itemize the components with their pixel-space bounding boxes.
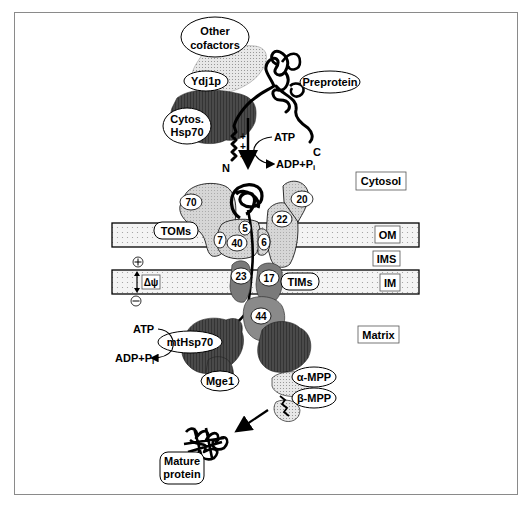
cytos-hsp70-text-1: Cytos. (170, 113, 204, 125)
mature-text-2: protein (163, 468, 201, 480)
positive-charge-3: + (240, 151, 246, 162)
maturation-arrow (238, 410, 268, 430)
tim17-subunit: 17 (259, 270, 279, 286)
toms-label: TOMs (154, 222, 198, 239)
other-cofactors-text-2: cofactors (190, 39, 240, 51)
cytos-hsp70-label: Cytos. Hsp70 (163, 108, 211, 144)
mge1-label: Mge1 (201, 371, 239, 391)
alpha-mpp-label: α-MPP (292, 367, 336, 387)
other-cofactors-label: Other cofactors (181, 17, 249, 57)
beta-mpp-label: β-MPP (292, 388, 336, 408)
adp-matrix-label: ADP+Pi (115, 352, 154, 366)
preprotein-label: Preprotein (300, 71, 360, 93)
tims-text: TIMs (287, 276, 312, 288)
tim17-number: 17 (263, 273, 275, 284)
mge1-text: Mge1 (206, 375, 234, 387)
preprotein-loop (282, 54, 304, 97)
tom22-subunit: 22 (272, 211, 292, 227)
tom6-subunit: 6 (258, 234, 270, 250)
tom70-subunit: 70 (180, 194, 202, 210)
tom6-number: 6 (261, 237, 267, 248)
tims-label: TIMs (281, 273, 319, 290)
matrix-text: Matrix (362, 329, 395, 341)
atp-matrix-label: ATP (133, 323, 154, 335)
tom5-subunit: 5 (239, 221, 251, 235)
preprotein-knot (231, 185, 262, 218)
atp-top-label: ATP (274, 131, 295, 143)
ims-label: IMS (373, 251, 400, 266)
tom70-number: 70 (185, 197, 197, 208)
tom20-subunit: 20 (291, 191, 313, 207)
mature-protein-label: Mature protein (160, 452, 204, 484)
n-terminus-label: N (222, 162, 230, 174)
tom22-number: 22 (276, 214, 288, 225)
mthsp70-label: mtHsp70 (158, 331, 222, 353)
ydj1p-label: Ydj1p (184, 71, 228, 91)
mthsp70-blob-2 (258, 322, 311, 373)
mature-text-1: Mature (164, 455, 200, 467)
adp-top-label: ADP+Pi (276, 158, 315, 172)
tom7-subunit: 7 (214, 232, 226, 248)
plus-sign (133, 257, 143, 267)
other-cofactors-text-1: Other (200, 25, 230, 37)
tom40-number: 40 (231, 238, 243, 249)
cytosol-label: Cytosol (356, 172, 406, 190)
mitochondrial-import-diagram: Other cofactors Ydj1p Cytos. Hsp70 Prepr… (0, 0, 528, 506)
c-terminus-label: C (313, 146, 321, 158)
cytos-hsp70-text-2: Hsp70 (170, 126, 203, 138)
tim23-number: 23 (235, 271, 247, 282)
im-label: IM (380, 274, 400, 291)
ims-text: IMS (377, 253, 397, 265)
alpha-mpp-text: α-MPP (297, 371, 331, 383)
preprotein-text: Preprotein (302, 76, 357, 88)
om-label: OM (375, 226, 400, 243)
minus-sign (131, 296, 141, 306)
tom40-subunit: 40 (227, 235, 247, 251)
tom20-number: 20 (296, 194, 308, 205)
toms-text: TOMs (161, 225, 191, 237)
beta-mpp-text: β-MPP (297, 392, 331, 404)
matrix-label: Matrix (358, 326, 399, 343)
tim44-number: 44 (255, 311, 267, 322)
tim44-subunit: 44 (251, 308, 271, 324)
cytosol-text: Cytosol (361, 175, 401, 187)
delta-psi-label: Δψ (142, 275, 160, 289)
tom7-number: 7 (217, 235, 223, 246)
tom5-number: 5 (242, 223, 248, 234)
delta-psi-text: Δψ (144, 277, 159, 288)
ydj1p-text: Ydj1p (191, 75, 221, 87)
atp-hydrolysis-arrow-top (254, 137, 273, 164)
tim23-subunit: 23 (231, 268, 251, 284)
om-text: OM (379, 229, 397, 241)
im-text: IM (384, 277, 396, 289)
